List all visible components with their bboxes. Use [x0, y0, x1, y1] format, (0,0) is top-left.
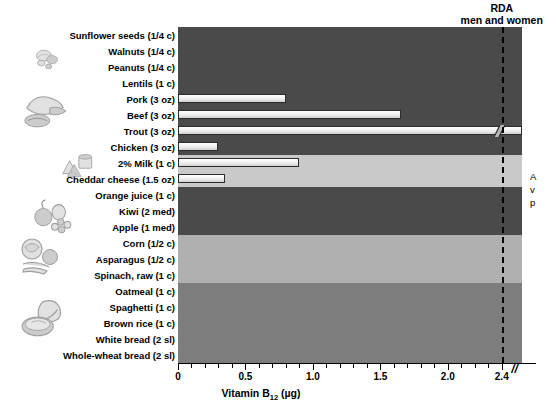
- rda-label-line2: men and women: [442, 14, 558, 26]
- side-annotation: A v p: [530, 170, 558, 209]
- x-tick-label: 1.0: [293, 371, 333, 382]
- x-tick-label: 1.5: [360, 371, 400, 382]
- x-tick-minor: [218, 364, 219, 368]
- bar: [178, 126, 522, 135]
- band-nuts: [178, 27, 522, 91]
- x-tick-minor: [394, 364, 395, 368]
- category-label: Trout (3 oz): [124, 126, 175, 137]
- x-axis-title-unit: (µg): [278, 387, 300, 399]
- band-veg: [178, 235, 522, 283]
- x-tick-minor: [421, 364, 422, 368]
- band-fruit: [178, 187, 522, 235]
- x-tick-minor: [205, 364, 206, 368]
- rda-dashed-line: [502, 27, 504, 363]
- plot-area: [178, 27, 522, 363]
- x-tick-minor: [475, 364, 476, 368]
- x-tick-minor: [232, 364, 233, 368]
- x-tick-minor: [286, 364, 287, 368]
- x-tick-minor: [326, 364, 327, 368]
- grains-illustration: [10, 292, 82, 344]
- x-tick-major: [245, 364, 246, 370]
- x-axis-title-subscript: 12: [270, 393, 278, 402]
- x-axis-title-main: Vitamin B: [222, 387, 270, 399]
- vegetables-illustration: [6, 232, 78, 282]
- category-label: Sunflower seeds (1/4 c): [69, 30, 175, 41]
- category-label: Pork (3 oz): [126, 94, 175, 105]
- bar: [178, 110, 401, 119]
- category-label: Corn (1/2 c): [123, 238, 175, 249]
- x-axis-title: Vitamin B12 (µg): [0, 387, 522, 402]
- category-label: Whole-wheat bread (2 sl): [63, 350, 175, 361]
- x-tick-label: 0: [158, 371, 198, 382]
- nuts-illustration: [27, 42, 69, 76]
- x-tick-minor: [488, 364, 489, 368]
- x-tick-minor: [367, 364, 368, 368]
- x-tick-minor: [461, 364, 462, 368]
- bar: [178, 158, 299, 167]
- axis-break-symbol: //: [511, 364, 518, 374]
- category-label: Brown rice (1 c): [104, 318, 175, 329]
- category-label: Chicken (3 oz): [111, 142, 175, 153]
- category-label: Spinach, raw (1 c): [94, 270, 175, 281]
- x-tick-minor: [259, 364, 260, 368]
- x-tick-major: [448, 364, 449, 370]
- meat-illustration: [5, 88, 83, 136]
- category-label: Oatmeal (1 c): [115, 286, 175, 297]
- x-tick-minor: [353, 364, 354, 368]
- category-label: Spaghetti (1 c): [110, 302, 175, 313]
- rda-reference-label: RDA men and women: [442, 2, 558, 26]
- category-label: Asparagus (1/2 c): [96, 254, 175, 265]
- x-tick-major: [178, 364, 179, 370]
- side-annotation-line3: p: [530, 196, 558, 209]
- dairy-illustration: [52, 150, 104, 188]
- x-tick-major: [380, 364, 381, 370]
- category-label: Peanuts (1/4 c): [108, 62, 175, 73]
- category-label: 2% Milk (1 c): [118, 158, 175, 169]
- vitamin-b12-chart-figure: RDA men and women Sunflower seeds (1/4 c…: [0, 0, 558, 402]
- x-tick-major: [313, 364, 314, 370]
- category-label: Apple (1 med): [112, 222, 175, 233]
- category-label: Orange juice (1 c): [95, 190, 175, 201]
- x-tick-label: 0.5: [225, 371, 265, 382]
- band-grain: [178, 283, 522, 363]
- x-tick-minor: [299, 364, 300, 368]
- side-annotation-line1: A: [530, 170, 558, 183]
- x-tick-minor: [434, 364, 435, 368]
- x-tick-label: 2.0: [428, 371, 468, 382]
- x-tick-major: [502, 364, 503, 370]
- bar: [178, 94, 286, 103]
- x-tick-minor: [191, 364, 192, 368]
- side-annotation-line2: v: [530, 183, 558, 196]
- category-label: Lentils (1 c): [122, 78, 175, 89]
- x-tick-minor: [272, 364, 273, 368]
- category-label: Beef (3 oz): [127, 110, 175, 121]
- rda-label-line1: RDA: [442, 2, 558, 14]
- bar: [178, 174, 225, 183]
- bar: [178, 142, 218, 151]
- category-label: Walnuts (1/4 c): [108, 46, 175, 57]
- x-tick-minor: [340, 364, 341, 368]
- x-tick-minor: [407, 364, 408, 368]
- category-label: Kiwi (2 med): [119, 206, 175, 217]
- category-label: White bread (2 sl): [96, 334, 175, 345]
